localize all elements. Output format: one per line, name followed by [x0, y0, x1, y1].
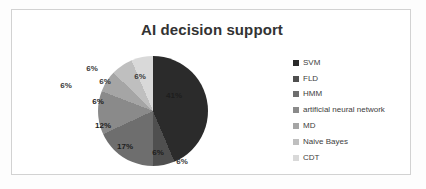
legend-item[interactable]: MD [293, 118, 413, 134]
pie-chart-area: 41%6%17%12%6%6%6%6%6%6% [42, 48, 242, 173]
pie-slice-label: 41% [166, 91, 182, 100]
legend-item-label: FLD [303, 75, 318, 83]
legend-item-label: SVM [303, 59, 320, 67]
pie-slice-label: 6% [99, 77, 111, 86]
legend-swatch-icon [293, 139, 299, 145]
legend-item-label: MD [303, 122, 315, 130]
pie-slice-label: 17% [117, 142, 133, 151]
legend-item[interactable]: HMM [293, 87, 413, 103]
legend-item-label: artificial neural network [303, 106, 385, 114]
legend-swatch-icon [293, 76, 299, 82]
legend-swatch-icon [293, 60, 299, 66]
legend-item[interactable]: SVM [293, 55, 413, 71]
legend-item[interactable]: artificial neural network [293, 102, 413, 118]
legend-item-label: HMM [303, 90, 322, 98]
pie-slice-label: 6% [60, 81, 72, 90]
legend-item-label: CDT [303, 154, 319, 162]
pie-slice-label: 12% [95, 121, 111, 130]
pie-slice-label: 6% [152, 148, 164, 157]
pie-slice-label: 6% [134, 72, 146, 81]
chart-legend: SVMFLDHMMartificial neural networkMDNaiv… [293, 55, 413, 166]
legend-item[interactable]: FLD [293, 71, 413, 87]
legend-swatch-icon [293, 123, 299, 129]
pie-slice-label: 6% [92, 97, 104, 106]
pie-slice-label: 6% [86, 64, 98, 73]
pie-slice-label: 6% [176, 157, 188, 166]
page-title: AI decision support [12, 21, 412, 38]
legend-swatch-icon [293, 155, 299, 161]
chart-frame: AI decision support 41%6%17%12%6%6%6%6%6… [11, 9, 411, 175]
legend-item[interactable]: CDT [293, 150, 413, 166]
legend-swatch-icon [293, 107, 299, 113]
chart-screenshot: AI decision support 41%6%17%12%6%6%6%6%6… [0, 0, 426, 189]
legend-item-label: Naive Bayes [303, 138, 348, 146]
legend-swatch-icon [293, 91, 299, 97]
legend-item[interactable]: Naive Bayes [293, 134, 413, 150]
